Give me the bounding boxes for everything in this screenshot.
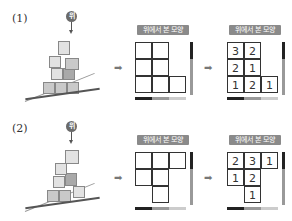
right-arrow-icon: ➡ xyxy=(114,172,122,183)
view-grid: 3 2 2 1 1 2 1 xyxy=(227,42,280,95)
view-grid xyxy=(135,152,188,205)
view-grid xyxy=(135,42,188,95)
right-arrow-icon: ➡ xyxy=(204,172,212,183)
view-title: 위에서 본 모양 xyxy=(229,25,281,35)
top-view-empty: 위에서 본 모양 xyxy=(135,135,193,145)
down-arrow-icon xyxy=(71,132,72,141)
top-view-marker-icon: 위 xyxy=(66,11,77,22)
view-title: 위에서 본 모양 xyxy=(229,135,281,145)
view-title: 위에서 본 모양 xyxy=(137,25,189,35)
right-arrow-icon: ➡ xyxy=(114,62,122,73)
top-view-empty: 위에서 본 모양 xyxy=(135,25,193,35)
view-grid: 2 3 1 1 2 1 xyxy=(227,152,280,205)
top-view-answer: 위에서 본 모양 2 3 1 1 2 1 xyxy=(227,135,285,145)
block-stack-illustration: 위 xyxy=(25,8,105,106)
top-view-marker-icon: 위 xyxy=(66,121,77,132)
right-arrow-icon: ➡ xyxy=(204,62,212,73)
top-view-answer: 위에서 본 모양 3 2 2 1 1 2 1 xyxy=(227,25,285,35)
problem-2: (2) 위 ➡ 위에서 본 모양 ➡ 위에서 본 모양 2 3 1 xyxy=(0,110,292,220)
down-arrow-icon xyxy=(71,22,72,31)
block-stack-illustration: 위 xyxy=(25,118,105,216)
problem-1: (1) 위 ➡ 위에서 본 모양 ➡ 위에서 본 모양 3 2 2 xyxy=(0,0,292,110)
view-title: 위에서 본 모양 xyxy=(137,135,189,145)
